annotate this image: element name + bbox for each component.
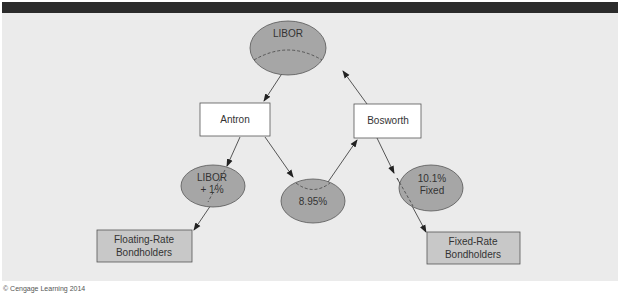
arrow-swap-rate-to-bosworth [328,140,357,182]
libor-plus-line2: + 1% [200,184,223,195]
swap-rate-node: 8.95% [281,179,345,223]
libor-node: LIBOR [250,21,326,75]
swap-diagram: LIBOR Antron Bosworth LIBOR + 1% 8.95% 1… [0,0,621,296]
fixed-rate-bondholders-node: Fixed-Rate Bondholders [427,232,520,264]
fixed-rate-node: 10.1% Fixed [397,165,463,211]
arrow-bosworth-to-libor [343,71,367,104]
libor-plus-node: LIBOR + 1% [181,165,245,207]
antron-node: Antron [200,103,270,136]
arrow-antron-to-libor-plus [227,137,240,166]
copyright-credit: © Cengage Learning 2014 [3,285,85,292]
fixed-holders-line2: Bondholders [445,249,501,260]
floating-holders-line2: Bondholders [116,247,172,258]
arrow-bosworth-to-fixed [377,138,394,173]
floating-rate-bondholders-node: Floating-Rate Bondholders [97,230,192,262]
arrow-libor-to-antron [264,72,283,101]
swap-rate-label: 8.95% [299,196,327,207]
fixed-holders-line1: Fixed-Rate [449,236,498,247]
bosworth-label: Bosworth [367,115,409,126]
fixed-rate-line2: Fixed [420,185,444,196]
libor-plus-line1: LIBOR [197,172,227,183]
libor-label: LIBOR [273,28,303,39]
floating-holders-line1: Floating-Rate [114,234,174,245]
fixed-rate-line1: 10.1% [418,173,446,184]
bosworth-node: Bosworth [354,104,421,138]
antron-label: Antron [220,114,249,125]
arrow-antron-to-swap-rate [265,137,293,177]
